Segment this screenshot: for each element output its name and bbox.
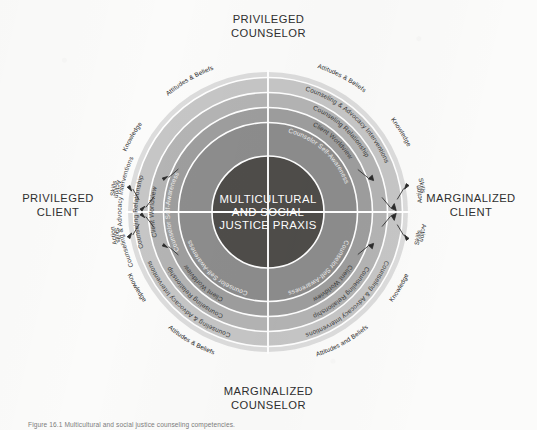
core-line-3: JUSTICE PRAXIS [219, 219, 316, 231]
arc-label-knowledge-tl: Knowledge [121, 120, 143, 152]
arc-label-knowledge-tr: Knowledge [390, 116, 413, 148]
axis-label-privileged-counselor: PRIVILEGED COUNSELOR [0, 12, 537, 41]
core-line-1: MULTICULTURAL [219, 193, 316, 205]
arc-label-skills-br: Skills [413, 230, 422, 246]
figure-caption: Figure 16.1 Multicultural and social jus… [28, 421, 235, 428]
axis-label-marginalized-counselor: MARGINALIZED COUNSELOR [0, 384, 537, 413]
axis-label-marginalized-client: MARGINALIZED CLIENT [409, 191, 533, 220]
diagram-canvas: Counselor Self-Awareness Client Worldvie… [0, 0, 537, 430]
core-line-2: AND SOCIAL [232, 206, 305, 218]
axis-label-privileged-client: PRIVILEGED CLIENT [6, 191, 110, 220]
core-praxis-text: MULTICULTURAL AND SOCIAL JUSTICE PRAXIS [219, 193, 316, 231]
